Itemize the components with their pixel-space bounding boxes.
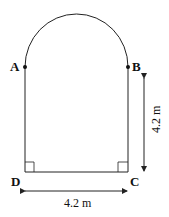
height-dimension-label: 4.2 m [149,105,163,133]
semicircle-arc [25,14,128,67]
label-b: B [132,59,141,74]
label-a: A [10,59,20,74]
point-a [23,65,27,69]
right-angle-d [25,162,34,172]
width-dimension-label: 4.2 m [64,196,92,210]
label-c: C [130,174,139,189]
right-angle-c [118,162,128,172]
diagram-canvas: A B D C 4.2 m 4.2 m [0,0,169,217]
label-d: D [11,174,20,189]
point-b [126,65,130,69]
